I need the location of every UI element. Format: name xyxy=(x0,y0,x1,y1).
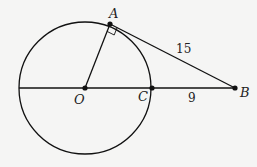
label-o: O xyxy=(74,92,85,107)
label-c: C xyxy=(138,89,148,104)
label-a: A xyxy=(108,6,118,21)
point-o xyxy=(82,85,87,90)
point-b xyxy=(232,85,237,90)
tangent-ab xyxy=(110,24,235,88)
geometry-diagram: A O C B 15 9 xyxy=(0,0,257,167)
point-c xyxy=(149,85,154,90)
label-b: B xyxy=(239,85,250,100)
diagram-canvas: A O C B 15 9 xyxy=(0,0,257,167)
radius-oa xyxy=(85,24,110,88)
length-cb-label: 9 xyxy=(188,91,196,105)
point-a xyxy=(107,21,112,26)
length-ab-label: 15 xyxy=(176,42,191,56)
